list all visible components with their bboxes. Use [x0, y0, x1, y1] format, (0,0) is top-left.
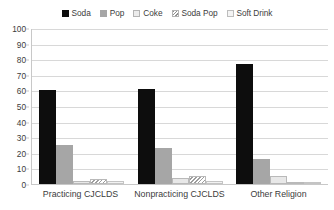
legend-item-pop: Pop — [100, 9, 125, 18]
bar-pop — [155, 148, 172, 184]
y-axis-tick-mark — [26, 91, 29, 92]
y-axis-tick-label: 100 — [12, 25, 26, 34]
bar-soda — [138, 89, 155, 184]
bar-soft-drink — [304, 182, 321, 184]
bar-coke — [73, 181, 90, 184]
y-axis-tick-mark — [26, 185, 29, 186]
y-axis-tick-mark — [26, 60, 29, 61]
legend-swatch-soda-pop-icon — [172, 10, 179, 17]
legend-item-soda: Soda — [62, 9, 91, 18]
x-axis-labels: Practicing CJCLDSNonpracticing CJCLDSOth… — [31, 188, 328, 204]
bar-group — [229, 29, 328, 184]
y-axis-tick-mark — [26, 75, 29, 76]
bar-soda-pop — [90, 179, 107, 184]
y-axis-tick-mark — [26, 107, 29, 108]
bar-groups — [32, 29, 328, 184]
chart-legend: Soda Pop Coke Soda Pop Soft Drink — [0, 5, 334, 21]
y-axis-tick-label: 90 — [17, 40, 26, 49]
bar-soda — [236, 64, 253, 184]
y-axis-tick-mark — [26, 138, 29, 139]
x-axis-category-label: Other Religion — [229, 188, 328, 204]
x-axis-category-label: Nonpracticing CJCLDS — [130, 188, 229, 204]
y-axis-tick-label: 80 — [17, 56, 26, 65]
y-axis-tick-mark — [26, 153, 29, 154]
legend-swatch-soda-icon — [62, 10, 69, 17]
y-axis: 1009080706050403020100 — [0, 29, 29, 186]
bar-chart: Soda Pop Coke Soda Pop Soft Drink 100908… — [0, 0, 334, 210]
legend-item-coke: Coke — [133, 9, 162, 18]
legend-label-coke: Coke — [143, 9, 162, 18]
bar-pop — [56, 145, 73, 184]
y-axis-tick-mark — [26, 29, 29, 30]
bar-pop — [253, 159, 270, 184]
y-axis-tick-label: 10 — [17, 165, 26, 174]
legend-swatch-coke-icon — [133, 10, 140, 17]
y-axis-tick-mark — [26, 169, 29, 170]
bar-soda — [39, 90, 56, 184]
bar-soft-drink — [107, 181, 124, 184]
legend-item-soda-pop: Soda Pop — [172, 9, 218, 18]
y-axis-tick-label: 50 — [17, 103, 26, 112]
y-axis-tick-mark — [26, 44, 29, 45]
bar-soft-drink — [206, 181, 223, 184]
bar-coke — [270, 176, 287, 184]
legend-label-soda-pop: Soda Pop — [182, 9, 218, 18]
legend-label-soda: Soda — [72, 9, 91, 18]
legend-swatch-pop-icon — [100, 10, 107, 17]
bar-soda-pop — [287, 182, 304, 184]
y-axis-tick-label: 40 — [17, 118, 26, 127]
legend-swatch-soft-drink-icon — [227, 10, 234, 17]
y-axis-tick-label: 20 — [17, 149, 26, 158]
legend-item-soft-drink: Soft Drink — [227, 9, 273, 18]
y-axis-tick-label: 30 — [17, 134, 26, 143]
y-axis-tick-mark — [26, 122, 29, 123]
bar-soda-pop — [189, 176, 206, 184]
y-axis-tick-label: 60 — [17, 87, 26, 96]
legend-label-soft-drink: Soft Drink — [237, 9, 273, 18]
legend-label-pop: Pop — [110, 9, 125, 18]
x-axis-category-label: Practicing CJCLDS — [31, 188, 130, 204]
plot-area — [31, 29, 328, 185]
bar-coke — [172, 178, 189, 184]
y-axis-tick-label: 70 — [17, 71, 26, 80]
bar-group — [32, 29, 131, 184]
bar-group — [131, 29, 230, 184]
